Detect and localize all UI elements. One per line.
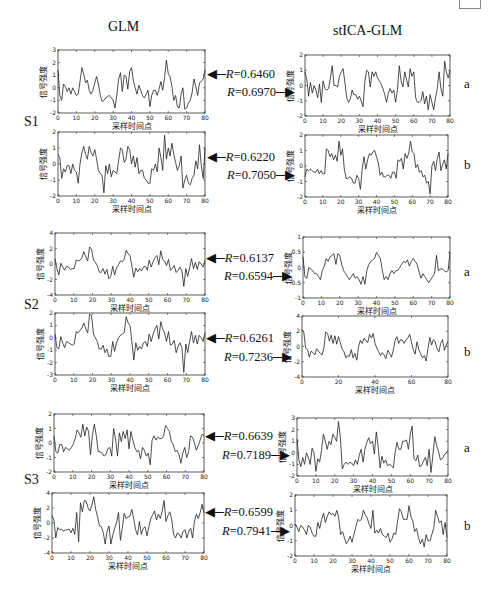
- x-tick-label: 10: [67, 554, 75, 561]
- y-tick-label: 2: [49, 309, 53, 316]
- y-tick-label: 1: [289, 506, 293, 513]
- r-symbol: R: [226, 150, 234, 164]
- r-value: 0.6639: [239, 429, 273, 443]
- r-label-s2b-stica: R=0.7236─▶: [224, 350, 292, 364]
- x-tick-label: 70: [425, 477, 433, 484]
- y-tick-label: 3: [291, 414, 295, 421]
- r-eq: =: [230, 448, 237, 462]
- x-tick-label: 0: [301, 299, 305, 306]
- y-tick-label: 1: [52, 144, 56, 151]
- y-tick-label: -2: [47, 276, 53, 283]
- x-tick-label: 60: [162, 554, 170, 561]
- x-tick-label: 20: [337, 117, 345, 124]
- plot-frame: [55, 313, 205, 375]
- x-tick-label: 10: [70, 296, 78, 303]
- r-label-s2b-glm: ◀─R=0.6261: [206, 331, 274, 345]
- r-label-s3a-stica: R=0.7189─▶: [222, 448, 290, 462]
- x-tick-label: 70: [182, 296, 190, 303]
- x-tick-label: 80: [201, 114, 209, 121]
- side-label-s3-a: a: [464, 440, 470, 456]
- plot-frame: [58, 50, 205, 113]
- x-axis-label: 采样时间点: [357, 205, 397, 215]
- y-tick-label: 0: [299, 162, 303, 169]
- r-eq: =: [232, 269, 239, 283]
- y-tick-label: -3: [47, 371, 53, 378]
- y-tick-label: -1: [47, 346, 53, 353]
- signal-line: [302, 330, 448, 361]
- plot-frame: [52, 493, 204, 553]
- x-tick-label: 0: [295, 477, 299, 484]
- x-tick-label: 50: [146, 114, 154, 121]
- x-tick-label: 0: [52, 473, 56, 480]
- x-tick-label: 30: [109, 114, 117, 121]
- r-value: 0.6137: [240, 251, 274, 265]
- x-tick-label: 20: [336, 299, 344, 306]
- signal-line: [55, 314, 205, 372]
- x-tick-label: 40: [371, 378, 379, 385]
- x-axis-label: 采样时间点: [351, 564, 391, 574]
- x-tick-label: 10: [69, 473, 77, 480]
- plot-frame: [305, 135, 448, 197]
- r-symbol: R: [226, 67, 234, 81]
- r-symbol: R: [227, 85, 235, 99]
- x-tick-label: 10: [318, 299, 326, 306]
- x-tick-label: 40: [126, 376, 134, 383]
- signal-line: [55, 247, 205, 287]
- x-tick-label: 70: [181, 473, 189, 480]
- y-tick-label: -1: [50, 96, 56, 103]
- r-symbol: R: [224, 269, 232, 283]
- x-tick-label: 50: [145, 296, 153, 303]
- r-label-s3a-glm: ◀─R=0.6639: [205, 429, 273, 443]
- y-tick-label: 0: [291, 449, 295, 456]
- x-tick-label: 0: [56, 114, 60, 121]
- x-tick-label: 80: [446, 299, 454, 306]
- x-tick-label: 40: [373, 198, 381, 205]
- x-tick-label: 60: [164, 114, 172, 121]
- x-tick-label: 40: [124, 554, 132, 561]
- r-symbol: R: [227, 168, 235, 182]
- x-tick-label: 10: [310, 557, 318, 564]
- y-tick-label: 2: [299, 51, 303, 58]
- r-eq: =: [232, 429, 239, 443]
- x-axis-label: 采样时间点: [108, 561, 148, 571]
- r-value: 0.6594: [239, 269, 273, 283]
- x-tick-label: 40: [128, 197, 136, 204]
- x-tick-label: 0: [293, 557, 297, 564]
- y-tick-label: 1: [49, 321, 53, 328]
- r-label-s1a-glm: ◀─R=0.6460: [207, 67, 275, 81]
- y-tick-label: -1: [46, 454, 52, 461]
- r-eq: =: [234, 150, 241, 164]
- x-tick-label: 60: [406, 477, 414, 484]
- x-tick-label: 30: [354, 299, 362, 306]
- y-tick-label: 1: [297, 233, 301, 240]
- y-tick-label: -4: [47, 291, 53, 298]
- x-tick-label: 0: [303, 198, 307, 205]
- x-tick-label: 60: [410, 117, 418, 124]
- r-symbol: R: [224, 505, 232, 519]
- x-tick-label: 20: [337, 198, 345, 205]
- x-tick-label: 70: [183, 197, 191, 204]
- column-title-glm: GLM: [108, 19, 139, 35]
- y-axis-label: 信号强度: [34, 427, 44, 459]
- x-tick-label: 50: [144, 473, 152, 480]
- r-eq: =: [233, 331, 240, 345]
- x-tick-label: 10: [73, 114, 81, 121]
- r-eq: =: [232, 350, 239, 364]
- r-eq: =: [235, 85, 242, 99]
- y-tick-label: -2: [50, 109, 56, 116]
- plot-frame: [58, 132, 205, 196]
- column-title-stica-glm: stICA-GLM: [333, 23, 402, 39]
- r-label-s3b-stica: R=0.7941─▶: [222, 524, 290, 538]
- x-tick-label: 70: [182, 376, 190, 383]
- y-tick-label: 2: [289, 491, 293, 498]
- x-tick-label: 20: [89, 296, 97, 303]
- x-tick-label: 70: [428, 117, 436, 124]
- y-tick-label: -4: [294, 373, 300, 380]
- x-tick-label: 10: [73, 197, 81, 204]
- x-tick-label: 20: [335, 378, 343, 385]
- x-tick-label: 80: [201, 376, 209, 383]
- y-tick-label: -2: [297, 112, 303, 119]
- x-tick-label: 60: [408, 378, 416, 385]
- signal-line: [295, 506, 447, 547]
- x-axis-label: 采样时间点: [109, 480, 149, 490]
